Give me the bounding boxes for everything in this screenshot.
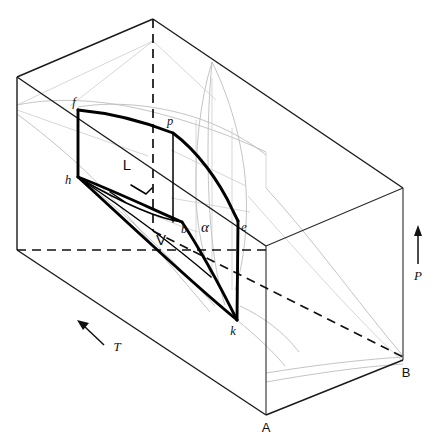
point-label-b: b	[181, 222, 187, 236]
box-edge-bottom-front-left	[17, 250, 266, 415]
corner-label-A: A	[262, 420, 271, 435]
box-edge-top-right	[153, 19, 403, 188]
surface-patch-group	[78, 110, 238, 320]
pressure-axis-label: P	[413, 268, 422, 283]
box-edge-bottom-front-right	[266, 360, 403, 415]
point-label-h: h	[65, 173, 71, 187]
pvt-diagram-root: f p h b e k L V α A B P T	[0, 0, 435, 448]
ghost-curve-dome-rim	[78, 104, 266, 155]
surface-edge-e-k	[237, 221, 238, 320]
point-label-k: k	[230, 324, 236, 338]
ghost-curve-base-secondary	[266, 364, 403, 382]
ghost-tie-spindle-lower	[171, 198, 250, 212]
ghost-curve-k-to-base	[237, 320, 285, 366]
point-label-f: f	[72, 95, 77, 109]
corner-label-B: B	[402, 365, 411, 380]
temperature-axis-label: T	[113, 339, 121, 354]
ghost-ruling-apex-left	[70, 41, 153, 106]
ghost-ruling-backface-b	[17, 110, 148, 156]
point-label-p: p	[166, 114, 173, 128]
ghost-curve-k-to-right	[240, 306, 299, 352]
region-label-liquid: L	[123, 156, 131, 173]
region-label-vapour: V	[156, 231, 166, 248]
perpendicular-tick-marker	[131, 185, 152, 194]
ghost-ruling-backface-a	[17, 41, 153, 105]
ghost-curve-base-to-B	[266, 357, 403, 373]
temperature-axis-line	[84, 326, 104, 345]
axis-arrows-group	[77, 225, 422, 345]
ghost-curve-backleft-upper	[17, 100, 266, 152]
ghost-ruling-right-body	[266, 188, 403, 356]
pvt-surface-figure: f p h b e k L V α A B P T	[0, 0, 435, 448]
box-edge-top-front-right	[266, 188, 403, 246]
point-label-e: e	[241, 220, 247, 234]
pressure-axis-arrowhead	[414, 225, 422, 236]
construction-curves-group	[17, 41, 403, 382]
ghost-ruling-apex-right	[153, 41, 216, 100]
surface-edge-h-b	[78, 177, 182, 222]
region-label-alpha: α	[201, 219, 210, 235]
box-edge-top-left	[17, 19, 153, 77]
ghost-curve-spindle-right	[212, 62, 247, 290]
